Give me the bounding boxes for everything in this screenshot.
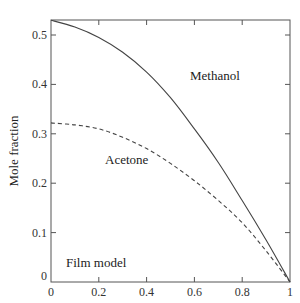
plot-frame xyxy=(51,20,290,282)
x-tick-label: 1 xyxy=(287,285,293,299)
y-tick-labels: 00.10.20.30.40.5 xyxy=(32,28,47,283)
y-axis-label: Mole fraction xyxy=(6,115,21,187)
y-tick-label: 0.5 xyxy=(32,28,47,42)
x-tick-label: 0.8 xyxy=(235,285,250,299)
acetone-label: Acetone xyxy=(105,152,149,167)
x-tick-label: 0.4 xyxy=(139,285,154,299)
y-tick-label: 0.1 xyxy=(32,226,47,240)
x-tick-labels: 00.20.40.60.81 xyxy=(48,285,293,299)
y-tick-label: 0.3 xyxy=(32,127,47,141)
x-tick-label: 0.2 xyxy=(91,285,106,299)
x-tick-label: 0.6 xyxy=(187,285,202,299)
film-model-label: Film model xyxy=(66,255,127,270)
y-tick-label: 0 xyxy=(41,269,47,283)
methanol-label: Methanol xyxy=(190,68,240,83)
mole-fraction-chart: 00.20.40.60.81 00.10.20.30.40.5 Methanol… xyxy=(0,0,300,303)
y-tick-label: 0.2 xyxy=(32,176,47,190)
y-tick-label: 0.4 xyxy=(32,77,47,91)
methanol-curve xyxy=(51,20,290,282)
x-tick-label: 0 xyxy=(48,285,54,299)
axis-ticks xyxy=(51,20,290,282)
